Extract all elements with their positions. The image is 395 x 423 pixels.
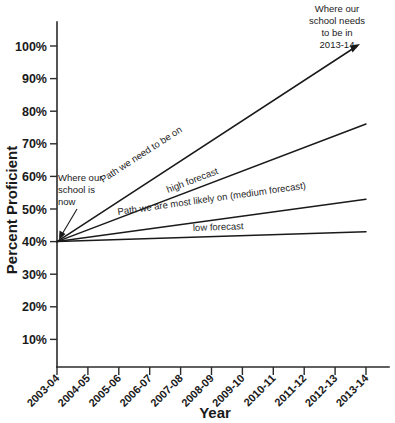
y-tick-label-90: 90%	[22, 72, 47, 86]
y-axis-ticks	[50, 46, 57, 339]
y-tick-label-50: 50%	[22, 203, 47, 217]
y-tick-label-30: 30%	[22, 268, 47, 282]
x-axis-title: Year	[199, 404, 231, 421]
annotation-where-school-is-now-line-1: Where our	[58, 172, 102, 183]
annotation-where-school-is-now-leader	[61, 209, 77, 236]
annotation-where-school-needs-to-be-line-3: to be in	[321, 27, 352, 38]
y-tick-label-80: 80%	[22, 105, 47, 119]
x-tick-label-7: 2010-11	[241, 372, 278, 409]
x-tick-label-10: 2013-14	[333, 371, 371, 409]
x-tick-label-0: 2003-04	[24, 371, 62, 409]
x-tick-label-1: 2004-05	[55, 372, 92, 409]
y-tick-label-20: 20%	[22, 300, 47, 314]
x-axis-ticks	[57, 367, 366, 375]
y-tick-label-40: 40%	[22, 235, 47, 249]
series-label-path-we-need-to-be-on: Path we need to be on	[98, 124, 184, 185]
series-label-low-forecast: low forecast	[193, 220, 244, 233]
x-tick-label-3: 2006-07	[117, 372, 154, 409]
y-tick-label-70: 70%	[22, 137, 47, 151]
annotation-where-school-needs-to-be: Where our school needs to be in 2013-14	[309, 3, 365, 50]
annotation-where-school-is-now-line-2: school is	[58, 184, 95, 195]
series-lines-group	[57, 46, 366, 242]
x-tick-label-4: 2007-08	[148, 372, 185, 409]
annotation-where-school-is-now: Where our school is now	[58, 172, 102, 240]
line-chart-svg: 100% 90% 80% 70% 60% 50% 40% 30% 20% 10%	[0, 0, 395, 423]
y-tick-label-10: 10%	[22, 333, 47, 347]
x-tick-label-8: 2011-12	[272, 372, 309, 409]
x-tick-label-2: 2005-06	[86, 372, 123, 409]
series-line-low-forecast	[57, 232, 366, 242]
annotation-where-school-needs-to-be-line-1: Where our	[315, 3, 359, 14]
y-axis-title: Percent Proficient	[3, 146, 20, 274]
y-tick-label-60: 60%	[22, 170, 47, 184]
annotation-where-school-is-now-line-3: now	[58, 196, 76, 207]
annotation-where-school-needs-to-be-line-4: 2013-14	[320, 39, 355, 50]
x-tick-label-9: 2012-13	[302, 372, 339, 409]
annotation-where-school-needs-to-be-line-2: school needs	[309, 15, 365, 26]
x-axis-tick-labels: 2003-04 2004-05 2005-06 2006-07 2007-08 …	[24, 371, 371, 409]
y-tick-label-100: 100%	[15, 40, 47, 54]
chart-container: 100% 90% 80% 70% 60% 50% 40% 30% 20% 10%	[0, 0, 395, 423]
